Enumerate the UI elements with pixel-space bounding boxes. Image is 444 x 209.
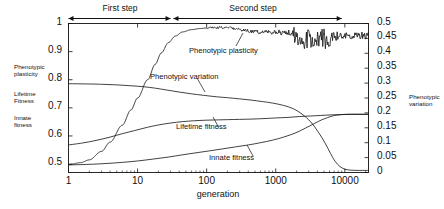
step-arrows	[69, 16, 342, 21]
side-label-innate-fitness: Innate fitness	[14, 115, 32, 128]
side-label-phenotypic-variation: Phenotypic variation	[409, 94, 440, 107]
x-tick-label: 10	[118, 176, 158, 187]
y-right-tick-label: 0.5	[377, 17, 407, 28]
figure-chart: generation Phenotypic plasticity Lifetim…	[0, 0, 444, 209]
x-tick-label: 10000	[325, 176, 365, 187]
y-right-tick-label: 0.15	[377, 121, 407, 132]
y-right-tick-label: 0.45	[377, 31, 407, 42]
side-label-lifetime-fitness-line2: Fitness	[14, 98, 36, 105]
curve-label-innate-fitness: Innate fitness	[209, 154, 254, 162]
y-right-tick-label: 0.35	[377, 61, 407, 72]
y-right-tick-label: 0.05	[377, 151, 407, 162]
y-left-tick-label: 0.7	[36, 101, 62, 112]
y-left-tick-label: 0.9	[36, 45, 62, 56]
y-right-tick-label: 0	[377, 166, 407, 177]
curve-label-phenotypic-plasticity: Phenotypic plasticity	[189, 47, 258, 55]
y-right-tick-label: 0.1	[377, 136, 407, 147]
y-left-tick-label: 1	[36, 17, 62, 28]
curve-label-lifetime-fitness: Lifetime fitness	[176, 123, 227, 131]
annotation-second-step: Second step	[212, 4, 294, 13]
side-label-phenotypic-variation-line2: variation	[409, 101, 440, 108]
y-right-tick-label: 0.25	[377, 91, 407, 102]
x-tick-label: 100	[187, 176, 227, 187]
side-label-lifetime-fitness: Lifetime Fitness	[14, 91, 36, 104]
y-left-tick-label: 0.8	[36, 73, 62, 84]
y-left-tick-label: 0.6	[36, 129, 62, 140]
side-label-innate-fitness-line2: fitness	[14, 122, 32, 129]
curve-label-phenotypic-variation: Phenotypic variation	[150, 73, 218, 81]
y-right-tick-label: 0.3	[377, 76, 407, 87]
y-right-tick-label: 0.2	[377, 106, 407, 117]
y-right-tick-label: 0.4	[377, 46, 407, 57]
x-axis-title: generation	[148, 190, 288, 199]
x-tick-label: 1000	[256, 176, 296, 187]
y-left-tick-label: 0.5	[36, 157, 62, 168]
annotation-first-step: First step	[85, 4, 155, 13]
x-tick-label: 1	[49, 176, 89, 187]
